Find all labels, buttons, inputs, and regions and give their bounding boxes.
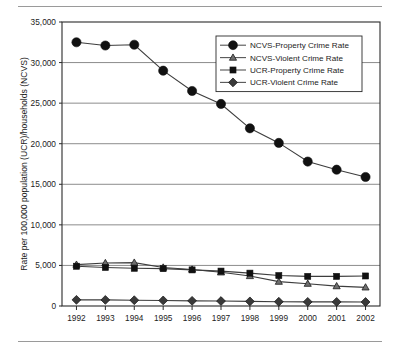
square-marker [230,67,236,73]
circle-marker [332,165,341,174]
square-marker [160,266,166,272]
y-tick-label: 0 [51,301,56,311]
chart-legend: NCVS-Property Crime RateNCVS-Violent Cri… [216,36,362,92]
y-tick-label: 5,000 [35,260,56,270]
x-tick-label: 1994 [125,313,144,323]
y-tick-label: 15,000 [31,179,57,189]
diamond-marker [245,297,254,306]
circle-marker [274,138,283,147]
square-marker [305,273,311,279]
y-tick-labels: 05,00010,00015,00020,00025,00030,00035,0… [31,17,57,311]
x-tick-labels: 1992199319941995199619971998199920002001… [67,313,375,323]
square-marker [363,273,369,279]
legend-label: UCR-Property Crime Rate [250,66,344,75]
legend-label: NCVS-Violent Crime Rate [250,54,343,63]
circle-marker [303,157,312,166]
legend-label: UCR-Violent Crime Rate [250,78,339,87]
y-tick-label: 20,000 [31,139,57,149]
legend-label: NCVS-Property Crime Rate [250,41,349,50]
x-tick-label: 2002 [356,313,375,323]
circle-marker [130,40,139,49]
square-marker [131,265,137,271]
x-tick-label: 1992 [67,313,86,323]
x-tick-label: 1999 [270,313,289,323]
series-diamond [72,295,370,306]
square-marker [73,263,79,269]
x-tick-label: 1998 [241,313,260,323]
y-tick-label: 30,000 [31,58,57,68]
square-marker [276,273,282,279]
circle-marker [245,124,254,133]
circle-marker [361,172,370,181]
square-marker [189,267,195,273]
y-tick-label: 25,000 [31,98,57,108]
line-chart: Rate per 100,000 population (UCR)/househ… [0,0,399,352]
circle-marker [188,86,197,95]
diamond-marker [159,296,168,305]
diamond-marker [101,295,110,304]
figure-container: Rate per 100,000 population (UCR)/househ… [0,0,399,352]
y-axis-title: Rate per 100,000 population (UCR)/househ… [19,57,29,271]
circle-marker [216,99,225,108]
x-tick-label: 1996 [183,313,202,323]
y-tick-label: 35,000 [31,17,57,27]
square-marker [218,268,224,274]
x-tick-label: 1993 [96,313,115,323]
diamond-marker [217,297,226,306]
circle-marker [229,41,238,50]
square-marker [102,264,108,270]
series-triangle [73,259,369,290]
x-tick-marks [76,306,365,310]
diamond-marker [361,298,370,307]
circle-marker [101,41,110,50]
circle-marker [72,38,81,47]
diamond-marker [130,296,139,305]
diamond-marker [332,297,341,306]
square-marker [247,270,253,276]
circle-marker [159,66,168,75]
square-marker [334,273,340,279]
diamond-marker [303,297,312,306]
x-tick-label: 2000 [298,313,317,323]
diamond-marker [274,297,283,306]
diamond-marker [188,296,197,305]
x-tick-label: 2001 [327,313,346,323]
x-tick-label: 1995 [154,313,173,323]
diamond-marker [72,295,81,304]
y-tick-label: 10,000 [31,220,57,230]
x-tick-label: 1997 [212,313,231,323]
